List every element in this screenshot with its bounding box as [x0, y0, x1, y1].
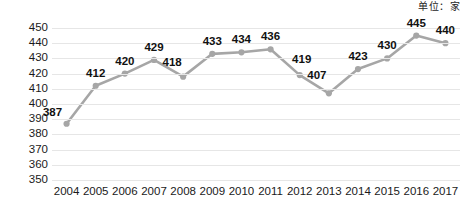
line-chart: 单位：家 450440430420410400390380370360350 3… — [0, 0, 466, 206]
data-point-label: 419 — [292, 53, 311, 65]
x-axis: 2004200520062007200820092010201120122013… — [52, 184, 460, 204]
gridline — [52, 58, 460, 59]
gridline — [52, 43, 460, 44]
x-axis-tick-label: 2013 — [316, 184, 342, 198]
y-axis-tick-label: 430 — [2, 53, 48, 65]
data-point-label: 429 — [144, 41, 163, 53]
y-axis-tick-label: 350 — [2, 174, 48, 186]
y-axis-tick-label: 440 — [2, 37, 48, 49]
gridline — [52, 180, 460, 181]
y-axis: 450440430420410400390380370360350 — [0, 28, 48, 180]
x-axis-tick-label: 2008 — [170, 184, 196, 198]
data-point-marker — [326, 90, 332, 96]
data-point-label: 412 — [86, 67, 105, 79]
x-axis-tick-label: 2005 — [83, 184, 109, 198]
plot-area: 3874124204294184334344364194074234304454… — [52, 28, 460, 180]
data-point-label: 423 — [348, 50, 367, 62]
unit-annotation: 单位：家 — [418, 1, 460, 13]
data-point-marker — [413, 33, 419, 39]
data-point-marker — [355, 66, 361, 72]
gridline — [52, 104, 460, 105]
x-axis-tick-label: 2015 — [374, 184, 400, 198]
data-point-label: 420 — [115, 55, 134, 67]
x-axis-tick-label: 2011 — [258, 184, 283, 198]
x-axis-tick-label: 2009 — [199, 184, 225, 198]
data-point-label: 407 — [307, 69, 326, 81]
x-axis-tick-label: 2010 — [229, 184, 255, 198]
gridline — [52, 150, 460, 151]
x-axis-tick-label: 2014 — [345, 184, 371, 198]
y-axis-tick-label: 370 — [2, 144, 48, 156]
x-axis-tick-label: 2006 — [112, 184, 138, 198]
y-axis-tick-label: 390 — [2, 113, 48, 125]
data-point-label: 434 — [232, 33, 251, 45]
y-axis-tick-label: 380 — [2, 129, 48, 141]
gridline — [52, 165, 460, 166]
y-axis-tick-label: 400 — [2, 98, 48, 110]
data-point-label: 430 — [378, 39, 397, 51]
x-axis-tick-label: 2007 — [141, 184, 167, 198]
data-point-label: 433 — [203, 35, 222, 47]
x-axis-tick-label: 2012 — [287, 184, 313, 198]
data-point-label: 436 — [261, 30, 280, 42]
data-point-label: 418 — [163, 56, 182, 68]
data-point-marker — [209, 51, 215, 57]
x-axis-tick-label: 2017 — [433, 184, 459, 198]
x-axis-tick-label: 2016 — [403, 184, 429, 198]
data-point-marker — [267, 46, 273, 52]
data-point-label: 387 — [43, 106, 62, 118]
x-axis-tick-label: 2004 — [54, 184, 80, 198]
data-point-marker — [238, 49, 244, 55]
y-axis-tick-label: 410 — [2, 83, 48, 95]
y-axis-tick-label: 450 — [2, 22, 48, 34]
gridline — [52, 134, 460, 135]
y-axis-tick-label: 420 — [2, 68, 48, 80]
gridline — [52, 89, 460, 90]
data-point-label: 445 — [407, 17, 426, 29]
y-axis-tick-label: 360 — [2, 159, 48, 171]
gridline — [52, 74, 460, 75]
data-point-marker — [63, 121, 69, 127]
gridline — [52, 28, 460, 29]
data-point-label: 440 — [436, 24, 455, 36]
gridline — [52, 119, 460, 120]
